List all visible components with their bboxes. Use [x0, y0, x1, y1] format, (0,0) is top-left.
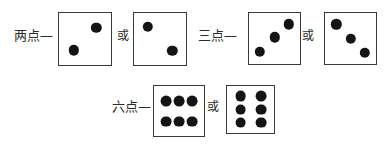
three-points-row-conjunction: 或	[302, 30, 314, 43]
die-pip	[235, 104, 246, 115]
die-three-b	[324, 12, 377, 65]
die-two-b	[133, 12, 187, 66]
die-pip	[269, 32, 279, 42]
die-pip	[161, 96, 172, 107]
die-pip	[255, 117, 266, 128]
six-points-row-conjunction: 或	[207, 101, 219, 114]
die-pip	[255, 104, 266, 115]
die-six-a	[153, 85, 205, 137]
die-pip	[91, 22, 101, 32]
die-pip	[235, 117, 246, 128]
die-two-a	[58, 12, 112, 66]
die-pip	[174, 116, 185, 127]
die-pip	[255, 91, 266, 102]
die-pip	[360, 48, 370, 58]
six-points-row-label: 六点—	[112, 100, 151, 114]
die-three-a	[248, 12, 301, 65]
die-pip	[345, 33, 355, 43]
two-points-row-label: 两点—	[14, 29, 53, 43]
die-pip	[331, 19, 341, 29]
die-pip	[284, 19, 294, 29]
die-pip	[142, 21, 152, 31]
two-points-row-conjunction: 或	[117, 30, 129, 43]
die-pip	[167, 46, 177, 56]
die-pip	[187, 96, 198, 107]
die-pip	[187, 116, 198, 127]
three-points-row-label: 三点—	[198, 29, 237, 43]
die-six-b	[226, 85, 275, 134]
die-pip	[68, 45, 78, 55]
die-pip	[161, 116, 172, 127]
dice-illustration-figure: 两点—或三点—或六点—或	[0, 0, 388, 145]
die-pip	[235, 91, 246, 102]
die-pip	[255, 47, 265, 57]
die-pip	[174, 96, 185, 107]
